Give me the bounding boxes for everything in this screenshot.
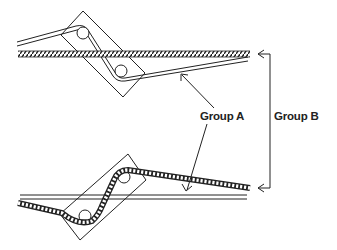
bottom-assembly [18,154,250,240]
group-a-label: Group A [200,110,244,122]
top-assembly [17,11,250,97]
top-rope-strand [18,51,250,57]
group-b-label: Group B [274,110,319,122]
group-b-bracket [258,50,270,192]
bottom-wire-double-line [20,195,247,199]
top-lower-pin-icon [115,65,127,77]
group-a-pointers [181,74,214,191]
top-upper-pin-icon [77,27,89,39]
diagram-canvas [0,0,337,250]
